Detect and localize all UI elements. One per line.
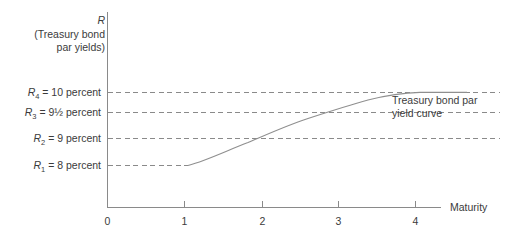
y-level-value-R4: = 10 percent: [39, 86, 101, 98]
y-axis-title-line2: par yields): [57, 41, 105, 53]
x-tick-label-2: 2: [260, 215, 266, 227]
y-level-value-R1: = 8 percent: [45, 159, 101, 171]
x-tick-label-0: 0: [105, 215, 111, 227]
x-tick-label-1: 1: [182, 215, 188, 227]
y-level-label-R3: R3 = 9½ percent: [25, 106, 101, 121]
curve-annotation-line2: yield curve: [392, 107, 442, 119]
y-level-label-R4: R4 = 10 percent: [28, 86, 101, 101]
x-axis-title: Maturity: [450, 201, 488, 213]
y-level-label-R1: R1 = 8 percent: [33, 159, 101, 174]
y-level-value-R3: = 9½ percent: [36, 106, 101, 118]
y-axis-title-symbol: R: [97, 14, 105, 26]
chart-canvas: R (Treasury bond par yields) R4 = 10 per…: [0, 0, 508, 248]
y-axis-title-line1: (Treasury bond: [34, 28, 105, 40]
x-tick-label-4: 4: [413, 215, 419, 227]
y-level-label-R2: R2 = 9 percent: [33, 132, 101, 147]
curve-annotation-line1: Treasury bond par: [392, 94, 478, 106]
y-level-value-R2: = 9 percent: [45, 132, 101, 144]
yield-curve-chart: R (Treasury bond par yields) R4 = 10 per…: [0, 0, 508, 248]
x-tick-label-3: 3: [336, 215, 342, 227]
